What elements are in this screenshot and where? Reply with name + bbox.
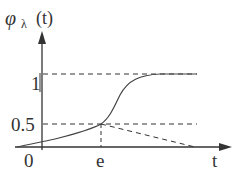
- x-tick-label-e: e: [96, 150, 104, 171]
- x-axis-arrow-icon: [219, 143, 232, 151]
- title-subscript: λ: [21, 17, 27, 31]
- y-axis-arrow-icon: [38, 31, 46, 44]
- title-symbol: φ: [5, 7, 16, 30]
- dashed-decreasing-line: [101, 124, 195, 147]
- sigmoid-curve: [17, 74, 197, 147]
- origin-label: 0: [24, 150, 34, 171]
- x-axis-label: t: [212, 150, 218, 171]
- sigmoid-diagram: φ λ (t) 1 0.5 0 e t: [0, 0, 233, 173]
- y-tick-label-1: 1: [31, 73, 41, 94]
- title-argument: (t): [36, 8, 53, 29]
- y-tick-label-05: 0.5: [11, 114, 35, 135]
